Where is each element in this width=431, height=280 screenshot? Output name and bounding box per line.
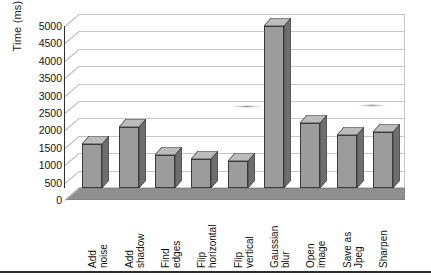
x-category-label-line: shadow: [135, 234, 146, 268]
x-category-label-line: blur: [280, 226, 291, 268]
scan-smudge-artifact-2: [358, 104, 386, 107]
x-category-label-line: Open: [305, 241, 316, 268]
x-category-label-line: Save as: [342, 232, 353, 268]
x-axis-category-labels: AddnoiseAddshadowFindedgesFliphorizontal…: [0, 0, 431, 280]
x-category-label-line: Flip: [196, 225, 207, 268]
bar-chart-figure: Time (ms) 050010001500200025003000350040…: [0, 0, 431, 280]
x-category-label-line: vertical: [244, 236, 255, 268]
x-category-label-line: Add: [124, 234, 135, 268]
x-category-label-line: edges: [171, 241, 182, 268]
x-category-label: Fliphorizontal: [196, 225, 218, 268]
x-category-label-line: Sharpen: [378, 230, 389, 268]
x-category-label: Findedges: [160, 241, 182, 268]
x-category-label-line: Gaussian: [269, 226, 280, 268]
x-category-label: Openimage: [305, 241, 327, 268]
scan-smudge-artifact-1: [232, 105, 262, 108]
x-category-label-line: Find: [160, 241, 171, 268]
x-category-label-line: Jpeg: [353, 232, 364, 268]
x-category-label: Gaussianblur: [269, 226, 291, 268]
x-category-label: Addnoise: [87, 244, 109, 268]
page-bottom-rule: [0, 271, 431, 273]
x-category-label: Addshadow: [124, 234, 146, 268]
x-category-label-line: image: [316, 241, 327, 268]
x-category-label-line: Flip: [233, 236, 244, 268]
x-category-label-line: Add: [87, 244, 98, 268]
x-category-label-line: noise: [98, 244, 109, 268]
x-category-label: Sharpen: [378, 230, 389, 268]
x-category-label: Save asJpeg: [342, 232, 364, 268]
x-category-label: Flipvertical: [233, 236, 255, 268]
x-category-label-line: horizontal: [207, 225, 218, 268]
